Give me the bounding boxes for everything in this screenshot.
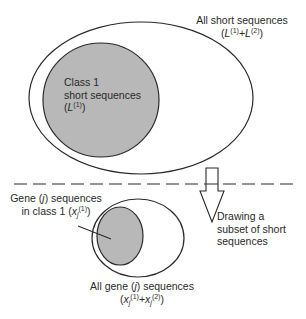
all-gene-sequences-label: All gene (j) sequences (xj(1)+xj(2)) bbox=[86, 280, 198, 305]
venn-diagram-canvas bbox=[0, 0, 306, 319]
paren-close: ) bbox=[259, 27, 263, 39]
sup-1: (1) bbox=[78, 205, 87, 212]
gene-class1-title: Gene (j) sequences bbox=[6, 192, 106, 205]
sup-1: (1) bbox=[230, 27, 239, 34]
class1-short-sequences-label: Class 1 short sequences (L(1)) bbox=[64, 76, 141, 114]
text: ) sequences bbox=[45, 192, 102, 204]
drawing-subset-label: Drawing a subset of short sequences bbox=[217, 210, 286, 248]
all-short-sequences-label: All short sequences (L(1)+L(2)) bbox=[186, 14, 298, 39]
text: in class 1 ( bbox=[21, 205, 71, 217]
paren-close: ) bbox=[160, 293, 164, 305]
all-short-sequences-title: All short sequences bbox=[186, 14, 298, 27]
all-gene-formula: (xj(1)+xj(2)) bbox=[86, 293, 198, 306]
paren-close: ) bbox=[82, 101, 86, 113]
text: ) bbox=[87, 205, 91, 217]
arrow-label-line-2: subset of short bbox=[217, 223, 286, 236]
text: ) sequences bbox=[137, 280, 194, 292]
class1-subtitle: short sequences bbox=[64, 89, 141, 102]
sup-1: (1) bbox=[73, 101, 82, 108]
arrow-label-line-3: sequences bbox=[217, 235, 286, 248]
class1-formula: (L(1)) bbox=[64, 101, 141, 114]
sup-1: (1) bbox=[130, 293, 139, 300]
gene-class1-formula: in class 1 (xj(1)) bbox=[6, 205, 106, 218]
text: All gene ( bbox=[90, 280, 134, 292]
arrow-label-line-1: Drawing a bbox=[217, 210, 286, 223]
class1-title: Class 1 bbox=[64, 76, 141, 89]
text: Gene ( bbox=[10, 192, 42, 204]
gene-class1-sequences-label: Gene (j) sequences in class 1 (xj(1)) bbox=[6, 192, 106, 217]
all-short-sequences-formula: (L(1)+L(2)) bbox=[186, 27, 298, 40]
all-gene-title: All gene (j) sequences bbox=[86, 280, 198, 293]
